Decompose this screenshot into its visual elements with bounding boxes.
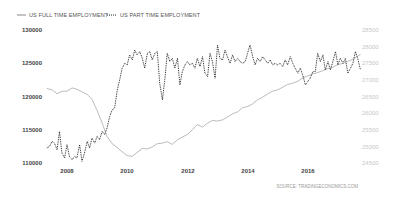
left-tick-label: 110000: [22, 160, 42, 166]
right-tick-label: 28000: [362, 44, 379, 50]
right-y-axis: 28500 28000 27500 27000 26500 26000 2550…: [362, 27, 379, 166]
x-axis: 2008 2010 2012 2014 2016: [60, 168, 315, 174]
legend-item-full-time[interactable]: US FULL TIME EMPLOYMENT: [17, 12, 109, 18]
left-y-axis: 130000 125000 120000 115000 110000: [22, 27, 43, 166]
right-tick-label: 28500: [362, 27, 379, 33]
right-tick-label: 25000: [362, 144, 379, 150]
x-tick-label: 2016: [301, 168, 315, 174]
right-tick-label: 27500: [362, 60, 379, 66]
left-tick-label: 120000: [22, 94, 43, 100]
left-tick-label: 115000: [22, 127, 42, 133]
employment-chart: US FULL TIME EMPLOYMENT US PART TIME EMP…: [0, 0, 395, 200]
left-tick-label: 130000: [22, 27, 43, 33]
right-tick-label: 26000: [362, 110, 379, 116]
right-tick-label: 25500: [362, 127, 379, 133]
legend-label-part-time: US PART TIME EMPLOYMENT: [120, 12, 201, 18]
right-tick-label: 27000: [362, 77, 379, 83]
x-tick-label: 2012: [181, 168, 195, 174]
source-label: SOURCE: TRADINGECONOMICS.COM: [277, 184, 359, 189]
left-tick-label: 125000: [22, 60, 43, 66]
x-tick-label: 2014: [241, 168, 255, 174]
x-tick-label: 2008: [60, 168, 74, 174]
right-tick-label: 26500: [362, 94, 379, 100]
legend-label-full-time: US FULL TIME EMPLOYMENT: [29, 12, 109, 18]
right-tick-label: 24500: [362, 160, 379, 166]
legend: US FULL TIME EMPLOYMENT US PART TIME EMP…: [17, 12, 201, 18]
x-tick-label: 2010: [120, 168, 134, 174]
legend-item-part-time[interactable]: US PART TIME EMPLOYMENT: [107, 12, 201, 18]
